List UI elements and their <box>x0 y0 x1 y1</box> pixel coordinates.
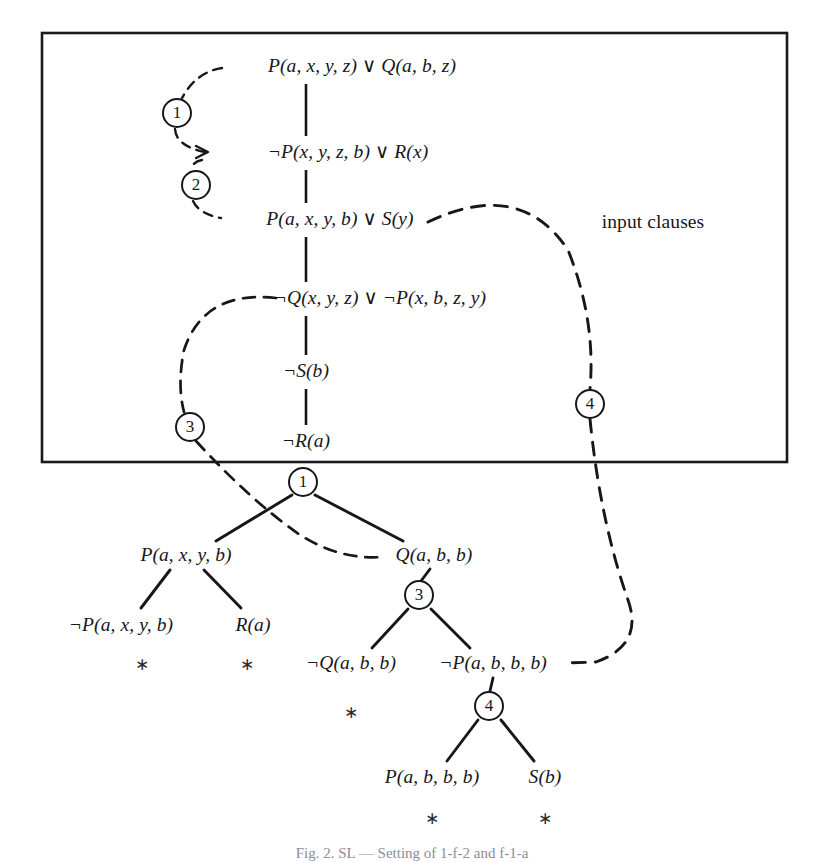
tree-edge-p-right <box>204 570 241 608</box>
tree-node-circle-4[interactable]: 4 <box>474 691 504 721</box>
input-clause-label: ¬S(b) <box>283 361 329 381</box>
closure-star-mark: ∗ <box>425 810 439 827</box>
tree-literal-label: ¬P(a, b, b, b) <box>439 653 547 673</box>
tree-literal-label: ¬P(a, x, y, b) <box>69 615 173 635</box>
tree-literal-label: P(a, x, y, b) <box>140 545 231 565</box>
link-circle-2[interactable]: 2 <box>181 170 211 200</box>
tree-literal-label: R(a) <box>235 615 270 635</box>
tree-edge-root-left <box>216 495 292 541</box>
input-clause-label: P(a, x, y, b) ∨ S(y) <box>266 209 413 229</box>
closure-star-mark: ∗ <box>135 656 149 673</box>
tree-edge-p-left <box>141 570 170 608</box>
tree-edges <box>141 495 534 761</box>
tree-literal-label: P(a, b, b, b) <box>385 767 479 787</box>
tree-edge-node4-right <box>501 720 534 761</box>
closure-star-mark: ∗ <box>538 810 552 827</box>
tree-literal-label: Q(a, b, b) <box>396 545 473 565</box>
tree-node-circle-1[interactable]: 1 <box>288 467 318 497</box>
tree-node-circle-3[interactable]: 3 <box>404 580 434 610</box>
link-circle-4[interactable]: 4 <box>575 389 605 419</box>
tree-edge-root-right <box>315 495 403 541</box>
tree-literal-label: S(b) <box>529 767 562 787</box>
input-clause-label: ¬Q(x, y, z) ∨ ¬P(x, b, z, y) <box>274 288 486 308</box>
tree-edge-np-to-node4 <box>490 678 493 691</box>
input-clause-label: P(a, x, y, z) ∨ Q(a, b, z) <box>268 56 456 76</box>
tree-edge-q-to-node3 <box>421 569 430 581</box>
tree-literal-label: ¬Q(a, b, b) <box>306 653 396 673</box>
link-circle-3[interactable]: 3 <box>175 412 205 442</box>
input-clause-label: ¬R(a) <box>282 431 330 451</box>
closure-star-mark: ∗ <box>240 656 254 673</box>
closure-star-mark: ∗ <box>344 704 358 721</box>
tree-edge-node3-right <box>431 609 470 648</box>
input-clause-box <box>42 33 787 462</box>
input-clauses-annotation: input clauses <box>602 212 705 232</box>
figure-caption: Fig. 2. SL — Setting of 1-f-2 and f-1-a <box>0 845 824 862</box>
tree-edge-node4-left <box>447 720 478 761</box>
link-circle-1[interactable]: 1 <box>162 98 192 128</box>
input-clause-label: ¬P(x, y, z, b) ∨ R(x) <box>268 142 429 162</box>
tree-edge-node3-left <box>372 609 408 648</box>
